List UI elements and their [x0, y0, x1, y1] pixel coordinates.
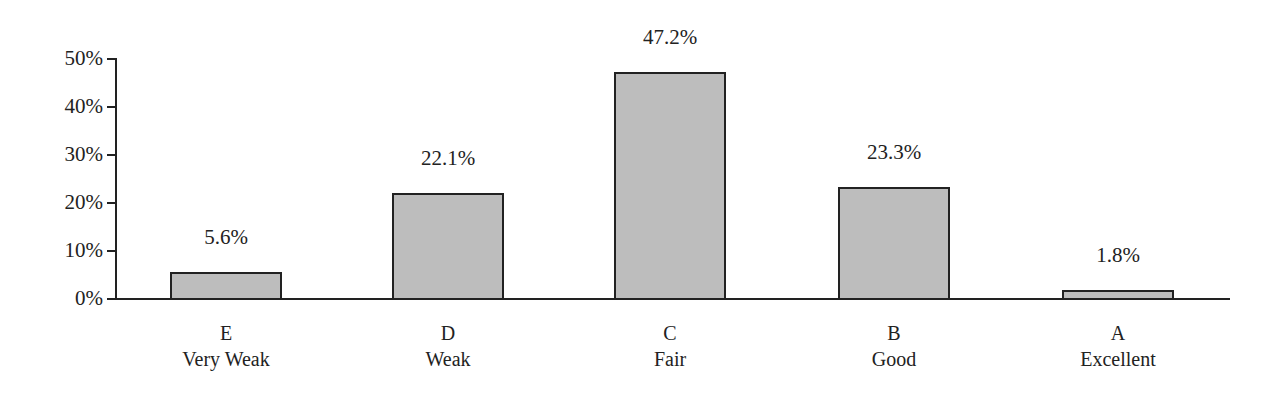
- y-tick-label: 40%: [43, 96, 103, 117]
- y-tick-label: 30%: [43, 144, 103, 165]
- value-label: 22.1%: [378, 148, 518, 169]
- category-name: Fair: [580, 346, 760, 372]
- category-label: EVery Weak: [136, 320, 316, 372]
- y-tick: [107, 298, 115, 300]
- bar-a: [1062, 290, 1174, 300]
- value-label: 47.2%: [600, 27, 740, 48]
- category-label: BGood: [804, 320, 984, 372]
- category-label: AExcellent: [1028, 320, 1208, 372]
- category-grade: B: [804, 320, 984, 346]
- bar-b: [838, 187, 950, 300]
- category-grade: E: [136, 320, 316, 346]
- bar-c: [614, 72, 726, 300]
- value-label: 23.3%: [824, 142, 964, 163]
- y-tick-label: 50%: [43, 48, 103, 69]
- y-axis: [115, 58, 117, 300]
- y-tick: [107, 154, 115, 156]
- category-grade: A: [1028, 320, 1208, 346]
- y-tick-label: 0%: [43, 288, 103, 309]
- category-name: Good: [804, 346, 984, 372]
- category-label: CFair: [580, 320, 760, 372]
- category-name: Weak: [358, 346, 538, 372]
- y-tick: [107, 58, 115, 60]
- bar-chart: 0%10%20%30%40%50%5.6%EVery Weak22.1%DWea…: [0, 0, 1264, 409]
- y-tick: [107, 106, 115, 108]
- y-tick: [107, 202, 115, 204]
- value-label: 5.6%: [156, 227, 296, 248]
- bar-d: [392, 193, 504, 300]
- category-name: Excellent: [1028, 346, 1208, 372]
- y-tick-label: 10%: [43, 240, 103, 261]
- category-name: Very Weak: [136, 346, 316, 372]
- category-label: DWeak: [358, 320, 538, 372]
- value-label: 1.8%: [1048, 245, 1188, 266]
- category-grade: D: [358, 320, 538, 346]
- category-grade: C: [580, 320, 760, 346]
- y-tick-label: 20%: [43, 192, 103, 213]
- y-tick: [107, 250, 115, 252]
- bar-e: [170, 272, 282, 300]
